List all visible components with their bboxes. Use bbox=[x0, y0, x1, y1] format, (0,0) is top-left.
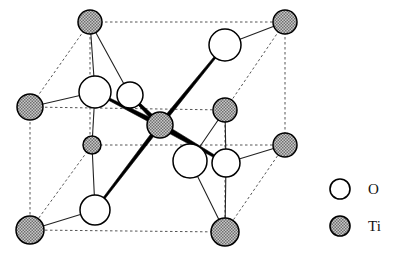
legend-swatch-titanium bbox=[330, 216, 350, 236]
atom-o-top-center bbox=[209, 29, 241, 61]
atom-o-lower-right-large bbox=[173, 144, 207, 178]
atom-ti-back-mid-right bbox=[213, 98, 237, 122]
legend-label-oxygen: O bbox=[368, 181, 379, 197]
atom-group bbox=[16, 10, 297, 246]
atom-ti-back-top-left bbox=[78, 10, 102, 34]
atom-ti-front-bottom-right bbox=[211, 218, 239, 246]
atom-ti-center bbox=[147, 112, 173, 138]
atom-o-lower-right-small bbox=[212, 149, 240, 177]
crystal-structure-figure: O Ti bbox=[0, 0, 394, 258]
structure-canvas: O Ti bbox=[0, 0, 394, 258]
atom-ti-interior-left bbox=[83, 136, 101, 154]
edge-front-bottom bbox=[30, 230, 225, 232]
legend: O Ti bbox=[330, 179, 381, 236]
atom-o-upper-left-large bbox=[79, 76, 111, 108]
atom-o-bottom-left bbox=[80, 195, 110, 225]
atom-ti-front-top-left bbox=[17, 94, 43, 120]
legend-label-titanium: Ti bbox=[368, 218, 381, 234]
legend-swatch-oxygen bbox=[330, 179, 350, 199]
atom-ti-front-bottom-left bbox=[16, 216, 44, 244]
atom-ti-front-mid-right bbox=[273, 133, 297, 157]
atom-ti-back-top-right bbox=[273, 10, 297, 34]
atom-o-upper-left-small bbox=[117, 82, 143, 108]
